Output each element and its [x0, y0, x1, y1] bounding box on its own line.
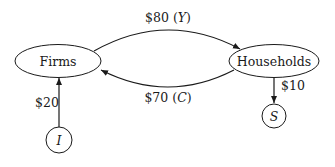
income-flow-arrow — [94, 30, 240, 51]
saving-label: S — [270, 109, 279, 124]
investment-node: I — [46, 127, 72, 153]
firms-node: Firms — [15, 45, 101, 78]
firms-label: Firms — [40, 54, 77, 69]
households-label: Households — [237, 54, 311, 69]
saving-node: S — [262, 104, 286, 128]
consumption-flow-label: $70 (C) — [144, 90, 191, 105]
households-node: Households — [229, 45, 319, 78]
circular-flow-diagram: Firms Households I S $80 (Y) $70 (C) $20… — [0, 0, 335, 167]
investment-label: I — [56, 133, 63, 148]
investment-flow-label: $20 — [35, 95, 59, 110]
income-flow-label: $80 (Y) — [145, 10, 191, 25]
consumption-flow-arrow — [101, 70, 234, 87]
saving-flow-label: $10 — [281, 78, 305, 93]
